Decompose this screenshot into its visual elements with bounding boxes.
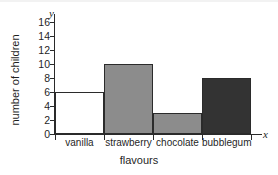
y-tick-mark (50, 36, 55, 37)
y-axis-tick-labels: 0246810121416 (26, 0, 50, 175)
y-tick-label: 8 (28, 73, 50, 83)
bar-chocolate (153, 113, 202, 134)
y-tick-mark (50, 64, 55, 65)
y-tick-mark (50, 22, 55, 23)
x-tick-mark (251, 134, 252, 140)
y-tick-label: 0 (28, 129, 50, 139)
y-tick-label: 12 (28, 45, 50, 55)
y-tick-label: 10 (28, 59, 50, 69)
bar-strawberry (104, 64, 153, 134)
bar-chart: number of children y x 0246810121416 fla… (0, 0, 278, 175)
x-tick-label-chocolate: chocolate (153, 137, 202, 148)
y-tick-mark (50, 78, 55, 79)
x-axis-letter: x (263, 128, 268, 140)
x-tick-label-vanilla: vanilla (55, 137, 104, 148)
bar-vanilla (55, 92, 104, 134)
plot-area (55, 22, 251, 134)
bar-bubblegum (202, 78, 251, 134)
y-tick-mark (50, 50, 55, 51)
x-tick-label-strawberry: strawberry (104, 137, 153, 148)
y-tick-label: 16 (28, 17, 50, 27)
y-axis-title: number of children (9, 28, 23, 132)
y-tick-label: 4 (28, 101, 50, 111)
x-tick-label-bubblegum: bubblegum (202, 137, 251, 148)
x-axis-title: flavours (0, 154, 278, 166)
y-tick-label: 6 (28, 87, 50, 97)
y-tick-label: 2 (28, 115, 50, 125)
y-tick-label: 14 (28, 31, 50, 41)
